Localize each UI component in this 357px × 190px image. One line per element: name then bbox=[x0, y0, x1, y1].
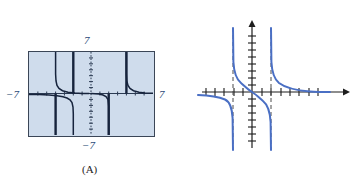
calculator-plot bbox=[29, 52, 153, 135]
calc-window-label-right: 7 bbox=[159, 89, 165, 100]
graph-plot bbox=[180, 0, 357, 160]
panel-b: f(x) x 5 −5 5 (B) bbox=[180, 0, 357, 190]
panel-a: 7 −7 7 −7 bbox=[0, 0, 180, 190]
graph-axes bbox=[202, 26, 344, 148]
calculator-screen bbox=[28, 51, 155, 137]
calc-window-label-top: 7 bbox=[84, 35, 90, 46]
graph-tick-marks bbox=[206, 36, 318, 141]
panel-a-caption: (A) bbox=[82, 163, 97, 175]
graph-curve bbox=[198, 28, 330, 150]
calc-window-label-bottom: −7 bbox=[82, 140, 95, 151]
textbook-figure: 7 −7 7 −7 bbox=[0, 0, 357, 190]
calc-window-label-left: −7 bbox=[6, 89, 19, 100]
